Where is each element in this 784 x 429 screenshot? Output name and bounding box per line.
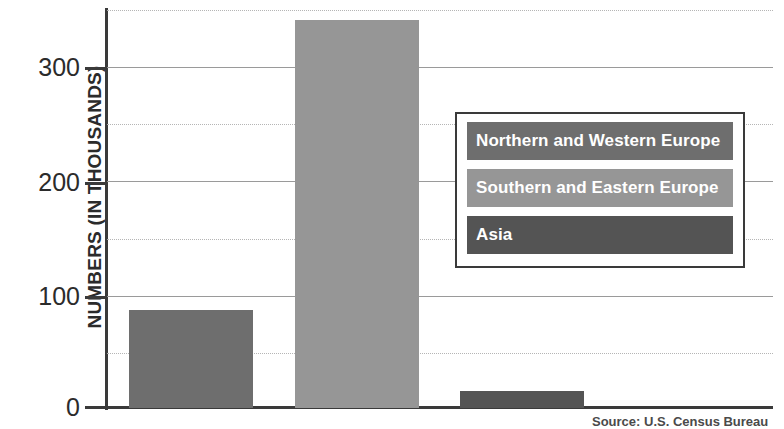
y-axis-title: NUMBERS (IN THOUSANDS) [84,7,106,387]
gridline-300 [107,67,773,68]
y-tick-label-0: 0 [0,395,80,420]
gridline-100 [107,296,773,297]
legend-item-southern-and-eastern-europe: Southern and Eastern Europe [467,169,733,207]
y-tick-label-200: 200 [0,170,80,195]
bar-northern-and-western-europe [129,310,253,408]
source-note: Source: U.S. Census Bureau [592,414,768,429]
legend-label-southern-and-eastern-europe: Southern and Eastern Europe [476,178,719,198]
y-tick-label-300: 300 [0,55,80,80]
legend-label-asia: Asia [476,225,512,245]
y-tick-mark-100 [85,296,107,299]
bar-southern-and-eastern-europe [295,20,419,408]
legend-item-asia: Asia [467,216,733,254]
legend-item-northern-and-western-europe: Northern and Western Europe [467,122,733,160]
bar-chart: NUMBERS (IN THOUSANDS) 300 200 100 0 Nor… [0,0,784,429]
y-tick-mark-300 [85,67,107,70]
bar-asia [460,391,584,408]
legend-label-northern-and-western-europe: Northern and Western Europe [476,131,720,151]
y-tick-mark-0 [85,406,107,409]
y-tick-mark-200 [85,182,107,185]
legend: Northern and Western Europe Southern and… [455,112,745,268]
y-tick-label-100: 100 [0,284,80,309]
gridline-350 [107,10,773,11]
